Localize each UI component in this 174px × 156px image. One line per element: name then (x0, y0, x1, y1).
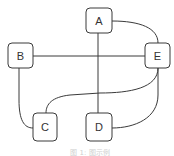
node-d[interactable]: D (86, 113, 112, 141)
diagram-caption: 图 1: 图示例 (70, 148, 109, 156)
node-b-label: B (17, 50, 24, 62)
edge-b-c (19, 68, 33, 128)
node-a[interactable]: A (86, 8, 112, 33)
node-a-label: A (95, 15, 103, 27)
node-c-label: C (41, 121, 49, 133)
node-d-label: D (95, 121, 103, 133)
node-c[interactable]: C (33, 113, 57, 141)
node-e-label: E (154, 50, 161, 62)
edge-a-e (112, 21, 158, 43)
edge-e-d (112, 68, 158, 128)
node-e[interactable]: E (145, 43, 170, 68)
edge-e-c (46, 68, 158, 113)
node-b[interactable]: B (8, 43, 33, 68)
graph-diagram: A B E C D 图 1: 图示例 (0, 0, 174, 156)
